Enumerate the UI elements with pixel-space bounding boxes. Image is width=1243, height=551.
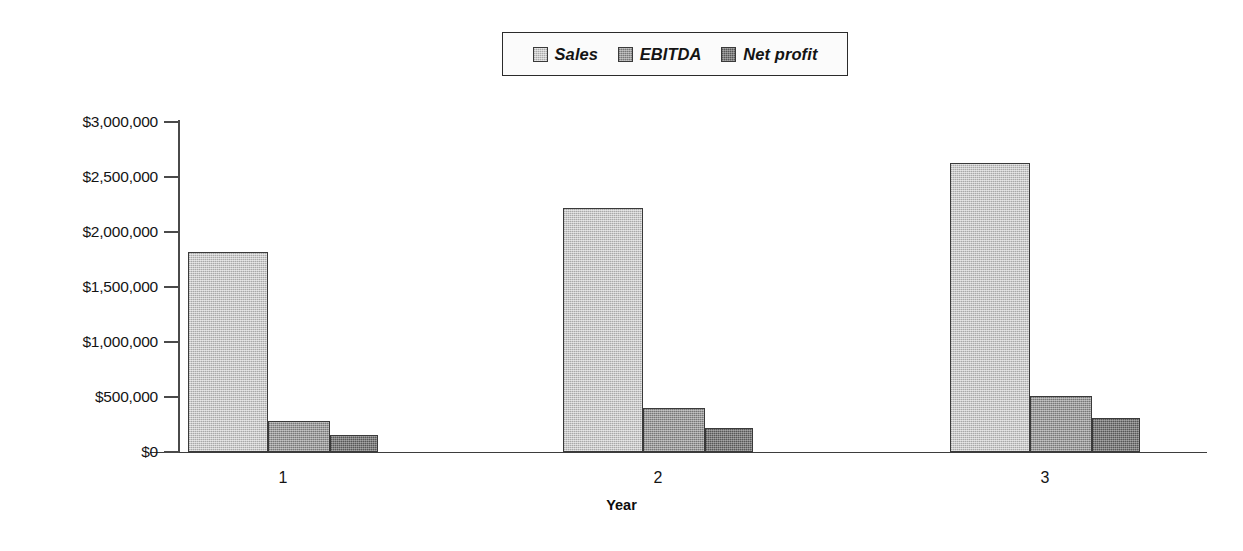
y-tick-mark — [164, 396, 179, 397]
y-tick-label: $2,000,000 — [82, 223, 158, 241]
y-tick-mark — [164, 286, 179, 287]
x-tick-label-2: 2 — [654, 469, 663, 487]
bar-netprofit-year-3 — [1092, 418, 1140, 452]
bar-netprofit-year-2 — [705, 428, 753, 452]
y-tick-label: $500,000 — [95, 388, 158, 406]
legend-item-sales: Sales — [533, 45, 599, 64]
x-axis-title: Year — [0, 497, 1243, 513]
chart-legend: Sales EBITDA Net profit — [502, 32, 848, 76]
y-tick-mark — [164, 231, 179, 232]
x-tick-label-3: 3 — [1041, 469, 1050, 487]
legend-item-netprofit: Net profit — [721, 45, 817, 64]
bar-ebitda-year-1 — [268, 421, 330, 452]
y-tick-mark — [164, 341, 179, 342]
legend-label-sales: Sales — [555, 45, 599, 64]
y-tick-mark — [164, 451, 179, 452]
bar-sales-year-3 — [950, 163, 1030, 452]
bar-sales-year-1 — [188, 252, 268, 452]
x-tick-label-1: 1 — [279, 469, 288, 487]
bar-netprofit-year-1 — [330, 435, 378, 452]
bar-chart: Sales EBITDA Net profit $0$500,000$1,000… — [0, 0, 1243, 551]
legend-label-ebitda: EBITDA — [640, 45, 702, 64]
legend-label-netprofit: Net profit — [743, 45, 817, 64]
y-tick-label: $2,500,000 — [82, 168, 158, 186]
y-tick-mark — [164, 176, 179, 177]
y-tick-label: $1,500,000 — [82, 278, 158, 296]
bar-ebitda-year-2 — [643, 408, 705, 452]
y-tick-label: $0 — [141, 443, 158, 461]
y-tick-label: $3,000,000 — [82, 113, 158, 131]
legend-swatch-ebitda-icon — [618, 47, 633, 62]
y-tick-mark — [164, 121, 179, 122]
legend-swatch-netprofit-icon — [721, 47, 736, 62]
legend-item-ebitda: EBITDA — [618, 45, 702, 64]
bar-sales-year-2 — [563, 208, 643, 452]
y-tick-label: $1,000,000 — [82, 333, 158, 351]
bar-ebitda-year-3 — [1030, 396, 1092, 452]
legend-swatch-sales-icon — [533, 47, 548, 62]
